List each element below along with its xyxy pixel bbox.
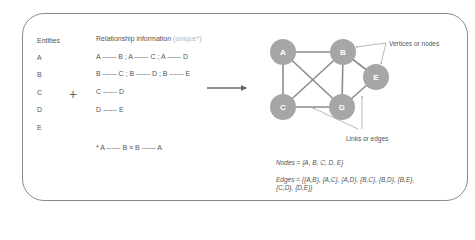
vertices-pointer-icon xyxy=(356,43,386,64)
edges-formula-line2: {C,D}, {D,E}} xyxy=(276,183,313,192)
node-a-label: A xyxy=(280,48,286,57)
graph-nodes xyxy=(270,39,389,120)
node-d-label: D xyxy=(339,103,345,112)
node-c-label: C xyxy=(280,103,286,112)
node-b-label: B xyxy=(340,48,346,57)
node-e-label: E xyxy=(373,73,379,82)
edges-annotation: Links or edges xyxy=(346,134,388,143)
vertices-annotation: Vertices or nodes xyxy=(389,39,439,48)
nodes-formula: Nodes = {A, B, C, D, E} xyxy=(276,158,343,167)
